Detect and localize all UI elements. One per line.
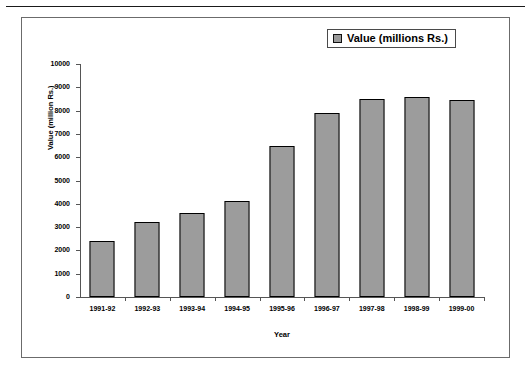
x-axis-tick-label: 1993-94 <box>179 305 205 312</box>
legend-label-value: Value (millions Rs.) <box>347 33 448 44</box>
bar-slot <box>349 64 394 297</box>
x-axis-tick-label: 1994-95 <box>224 305 250 312</box>
bar-slot <box>215 64 260 297</box>
y-axis-tick: 9000 <box>76 87 80 88</box>
bar-slot <box>304 64 349 297</box>
x-axis-tick <box>304 297 305 301</box>
y-axis-tick: 2000 <box>76 250 80 251</box>
legend-swatch-value <box>333 34 342 43</box>
x-axis-tick <box>394 297 395 301</box>
bar[interactable] <box>135 222 160 297</box>
x-axis-tick-label: 1991-92 <box>90 305 116 312</box>
bar-slot <box>439 64 484 297</box>
y-axis-tick: 3000 <box>76 227 80 228</box>
y-axis-tick: 10000 <box>76 64 80 65</box>
y-axis-tick: 0 <box>76 297 80 298</box>
y-axis-tick: 8000 <box>76 111 80 112</box>
bar-slot <box>394 64 439 297</box>
x-axis-tick <box>260 297 261 301</box>
x-axis-tick <box>484 297 485 301</box>
y-axis-tick-label: 6000 <box>54 153 70 160</box>
y-axis-tick: 7000 <box>76 134 80 135</box>
y-axis-tick-label: 4000 <box>54 200 70 207</box>
x-axis-tick-label: 1995-96 <box>269 305 295 312</box>
bar[interactable] <box>314 113 339 297</box>
x-axis-tick <box>349 297 350 301</box>
chart-screenshot: Value (millions Rs.) Year 01000200030004… <box>0 0 531 378</box>
x-axis-tick <box>170 297 171 301</box>
y-axis-tick-label: 8000 <box>54 107 70 114</box>
bar-slot <box>125 64 170 297</box>
x-axis-tick-label: 1992-93 <box>134 305 160 312</box>
x-axis-line <box>80 297 484 298</box>
x-axis-tick <box>215 297 216 301</box>
y-axis-tick-label: 3000 <box>54 223 70 230</box>
y-axis-tick: 5000 <box>76 181 80 182</box>
y-axis-tick: 6000 <box>76 157 80 158</box>
y-axis-tick-label: 5000 <box>54 177 70 184</box>
bar[interactable] <box>449 100 474 297</box>
x-axis-tick-label: 1996-97 <box>314 305 340 312</box>
x-axis-title: Year <box>80 330 484 339</box>
y-axis-tick: 1000 <box>76 274 80 275</box>
y-axis-tick-label: 10000 <box>51 60 70 67</box>
x-axis-tick-label: 1999-00 <box>449 305 475 312</box>
bar-slot <box>260 64 305 297</box>
bar[interactable] <box>225 201 250 297</box>
bar[interactable] <box>90 241 115 297</box>
chart-legend: Value (millions Rs.) <box>327 29 456 48</box>
y-axis-tick-label: 0 <box>66 293 70 300</box>
y-axis-tick: 4000 <box>76 204 80 205</box>
bar-series-value <box>80 64 484 297</box>
y-axis-tick-label: 7000 <box>54 130 70 137</box>
y-axis-tick-label: 2000 <box>54 246 70 253</box>
x-axis-tick <box>439 297 440 301</box>
bar-slot <box>80 64 125 297</box>
y-axis-title: Value (million Rs.) <box>46 85 55 150</box>
plot-area: Year 01000200030004000500060007000800090… <box>80 64 484 297</box>
x-axis-tick-label: 1997-98 <box>359 305 385 312</box>
bar[interactable] <box>180 213 205 297</box>
image-top-rule <box>6 6 525 7</box>
bar-slot <box>170 64 215 297</box>
y-axis-tick-label: 1000 <box>54 270 70 277</box>
bar[interactable] <box>359 99 384 297</box>
x-axis-tick-label: 1998-99 <box>404 305 430 312</box>
x-axis-tick <box>125 297 126 301</box>
y-axis-tick-label: 9000 <box>54 83 70 90</box>
chart-frame: Value (millions Rs.) Year 01000200030004… <box>21 17 510 358</box>
bar[interactable] <box>404 97 429 297</box>
bar[interactable] <box>269 146 294 297</box>
